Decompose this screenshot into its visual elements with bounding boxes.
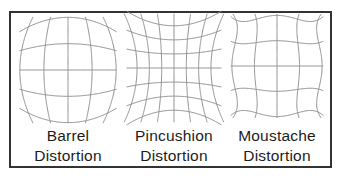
moustache-label-line1: Moustache <box>215 126 339 146</box>
moustache-label-line2: Distortion <box>215 146 339 166</box>
moustache-distortion-grid <box>215 4 339 128</box>
moustache-distortion-label: Moustache Distortion <box>215 126 339 166</box>
